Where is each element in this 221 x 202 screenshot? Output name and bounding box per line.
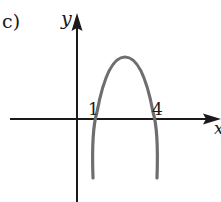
figure: c) y 1 4 x bbox=[0, 0, 221, 202]
graph-canvas bbox=[0, 0, 221, 202]
root-label-4: 4 bbox=[152, 101, 163, 118]
root-label-1: 1 bbox=[88, 101, 99, 118]
panel-label: c) bbox=[2, 12, 20, 31]
y-axis-label: y bbox=[61, 9, 72, 28]
parabola-curve bbox=[93, 57, 158, 178]
x-axis-label: x bbox=[214, 120, 221, 137]
